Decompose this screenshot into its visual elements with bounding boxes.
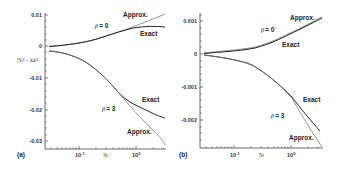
panel-b: 0.001 0 -0.001 -0.002 10-1 St 100 (b) β=… (179, 13, 323, 159)
beta3-label: β= 3 (270, 112, 285, 119)
y-tick-label: 0 (39, 43, 42, 49)
panel-label: (b) (179, 151, 187, 159)
approx-label-bottom: Approx. (289, 134, 314, 142)
y-ticks-b (200, 15, 203, 140)
approx-label-top: Approx. (123, 11, 148, 19)
beta3-label: β= 3 (101, 105, 116, 112)
curve-beta0-approx (204, 17, 322, 53)
y-tick-label: -0.002 (181, 117, 197, 123)
x-tick-label: 10-1 (230, 151, 240, 159)
panel-a: 0.01 0 -0.01 -0.02 -0.03 |S|² - |Ω|² 10-… (17, 11, 166, 159)
panel-label: (a) (17, 151, 25, 159)
beta0-label: β= 0 (260, 26, 275, 33)
x-ticks-a (51, 146, 163, 149)
y-tick-label: -0.03 (29, 138, 42, 144)
figure: 0.01 0 -0.01 -0.02 -0.03 |S|² - |Ω|² 10-… (0, 0, 338, 170)
y-tick-label: -0.001 (181, 84, 197, 90)
y-tick-label: -0.01 (29, 75, 42, 81)
exact-label-top: Exact (282, 41, 300, 48)
x-axis-title: St (103, 152, 108, 158)
y-tick-label: 0.01 (31, 12, 42, 18)
approx-label-bottom: Approx. (127, 128, 152, 136)
x-tick-label: 10-1 (75, 151, 85, 159)
y-tick-label: -0.02 (29, 107, 42, 113)
exact-label-bottom: Exact (142, 96, 160, 103)
exact-label-bottom: Exact (303, 96, 321, 103)
x-ticks-b (206, 145, 318, 148)
curve-beta3-exact (204, 55, 320, 131)
x-axis-title: St (259, 152, 264, 158)
x-tick-label: 100 (132, 151, 141, 159)
y-ticks-a (45, 15, 48, 141)
y-axis-title: |S|² - |Ω|² (17, 57, 38, 63)
beta0-label: β= 0 (94, 22, 109, 29)
y-tick-label: 0 (194, 51, 197, 57)
x-tick-label: 100 (287, 151, 296, 159)
approx-label-top: Approx. (290, 14, 315, 22)
y-tick-label: 0.001 (183, 18, 197, 24)
exact-label-top: Exact (140, 30, 158, 37)
curve-beta0-exact (204, 18, 322, 54)
